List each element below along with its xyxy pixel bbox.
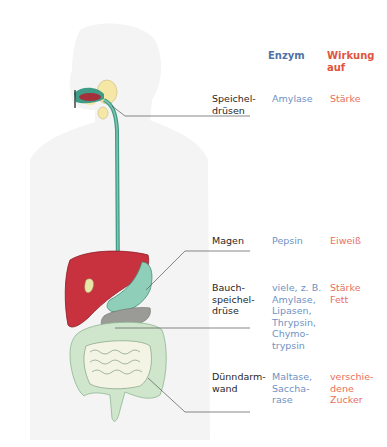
enzyme-pancreatic: viele, z. B. Amylase, Lipasen, Thrypsin,… [272, 282, 321, 351]
effect-starch: Stärke [330, 93, 361, 105]
enzyme-maltase-saccharase: Maltase, Saccha- rase [272, 371, 312, 406]
enzyme-amylase: Amylase [272, 93, 313, 105]
effect-starch-fat: Stärke Fett [330, 282, 361, 305]
organ-small-intestine-wall: Dünndarm- wand [212, 371, 266, 394]
enzyme-pepsin: Pepsin [272, 235, 303, 247]
header-enzyme: Enzym [268, 50, 305, 62]
effect-sugars: verschie- dene Zucker [330, 371, 373, 406]
organ-stomach: Magen [212, 235, 244, 247]
organ-pancreas: Bauch- speichel- drüse [212, 282, 255, 317]
effect-protein: Eiweiß [330, 235, 361, 247]
small-intestine [84, 341, 152, 389]
organ-salivary-glands: Speichel- drüsen [212, 93, 256, 116]
header-effect: Wirkung auf [327, 50, 374, 73]
